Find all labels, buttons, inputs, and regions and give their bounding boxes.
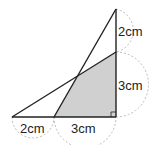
label-right-lower: 3cm [118,78,143,93]
geometry-diagram: 2cm 3cm 2cm 3cm [0,0,156,145]
label-right-upper: 2cm [118,24,143,39]
label-bottom-right: 3cm [71,121,96,136]
label-bottom-left: 2cm [20,121,45,136]
